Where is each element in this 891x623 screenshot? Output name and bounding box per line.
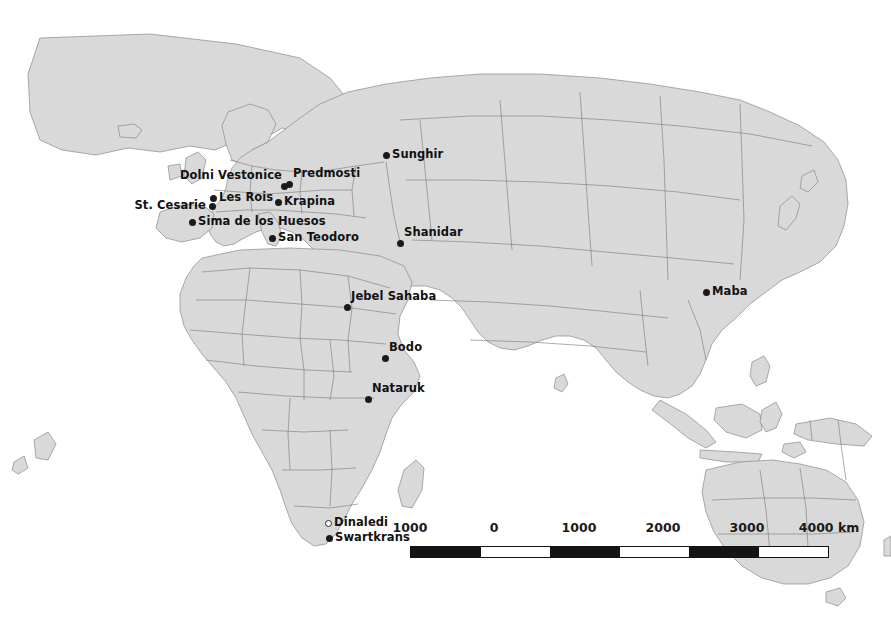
site-dot-icon [189,219,196,226]
scale-tick-labels: 100001000200030004000 km [410,522,829,540]
site-label: Dolni Vestonice [180,170,282,182]
site-label: Krapina [284,196,335,208]
scale-tick-label: 0 [490,522,499,535]
site-label: Les Rois [219,192,273,204]
site-label: Dinaledi [334,517,388,529]
site-dot-icon [269,235,276,242]
scale-tick-label: 1000 [562,522,597,535]
site-dot-icon [275,199,282,206]
scale-bar-segment [481,547,551,557]
site-label: Sima de los Huesos [198,216,326,228]
site-dot-icon [286,181,293,188]
site-label: Sunghir [392,149,443,161]
scale-bar [410,546,829,558]
site-dot-icon [365,396,372,403]
scale-tick-label: 4000 km [799,522,859,535]
site-dot-icon [344,304,351,311]
site-dot-icon [209,203,216,210]
scale-bar-segment [620,547,690,557]
site-label: Maba [712,286,748,298]
scale-bar-segment [550,547,620,557]
site-dot-icon [397,240,404,247]
site-label: Predmosti [293,168,360,180]
scale-bar-segment [759,547,829,557]
site-dot-icon [326,535,333,542]
scale-bar-segment [411,547,481,557]
site-dot-icon [210,195,217,202]
scale-tick-label: 3000 [730,522,765,535]
site-dot-icon [325,520,332,527]
scale-tick-label: 2000 [646,522,681,535]
site-label: Shanidar [404,227,463,239]
site-dot-icon [382,355,389,362]
site-label: Jebel Sahaba [351,291,436,303]
site-dot-icon [703,289,710,296]
site-dot-icon [383,152,390,159]
scale-bar-group: 100001000200030004000 km [410,522,829,566]
scale-bar-segment [689,547,759,557]
site-label: Nataruk [372,383,425,395]
site-label: Bodo [389,342,422,354]
scale-tick-label: 1000 [393,522,428,535]
world-map-figure: SunghirDolni VestonicePredmostiLes RoisS… [0,0,891,623]
site-label: San Teodoro [278,232,359,244]
site-label: St. Cesarie [134,200,206,212]
